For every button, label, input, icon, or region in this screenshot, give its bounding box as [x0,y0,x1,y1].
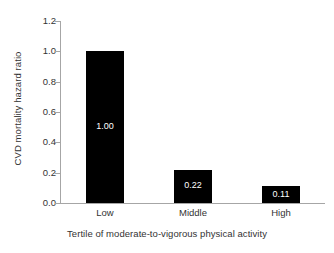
plot-area: 1.000.220.11 [61,21,325,203]
y-tick-label: 0.4 [30,137,56,147]
cvd-mortality-bar-chart: CVD mortality hazard ratio 1.2 1.0 0.8 0… [0,0,334,253]
bar: 1.00 [86,51,124,203]
bar-value-label: 0.11 [262,190,300,199]
bar: 0.11 [262,186,300,203]
bar-value-label: 0.22 [174,181,212,190]
x-axis-category-label: High [237,208,325,218]
y-axis-title: CVD mortality hazard ratio [12,14,23,204]
x-axis-line [60,203,325,204]
y-axis-tick-labels: 1.2 1.0 0.8 0.6 0.4 0.2 0.0 [28,0,56,253]
x-axis-category-label: Middle [149,208,237,218]
bar-value-label: 1.00 [86,122,124,131]
x-axis-category-labels: LowMiddleHigh [61,208,325,222]
y-tick-label: 1.0 [30,46,56,56]
y-tick-label: 0.6 [30,107,56,117]
y-tick-label: 0.8 [30,77,56,87]
y-tick-label: 1.2 [30,16,56,26]
y-tick-label: 0.0 [30,198,56,208]
x-axis-category-label: Low [61,208,149,218]
x-axis-title: Tertile of moderate-to-vigorous physical… [0,228,334,239]
bar: 0.22 [174,170,212,203]
y-tick-label: 0.2 [30,168,56,178]
